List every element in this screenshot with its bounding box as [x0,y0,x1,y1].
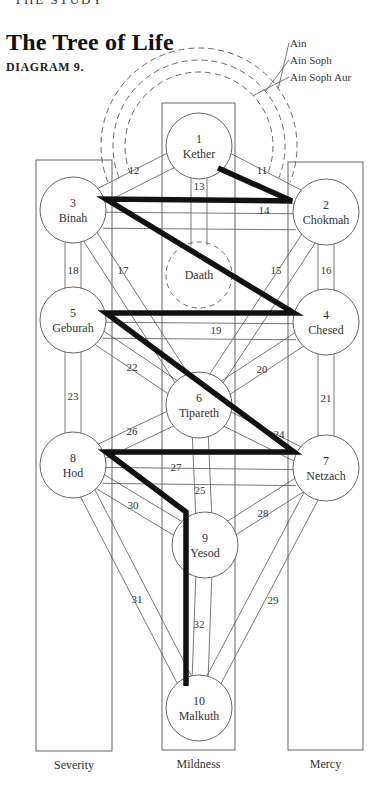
path-line [103,228,297,230]
path-number: 13 [194,180,206,192]
path-23: 23 [65,350,81,436]
path-line [208,434,211,515]
path-13: 13 [191,176,207,246]
sephirah-name: Daath [185,268,214,282]
veil-label: Ain Soph [290,54,332,66]
sephirah-circle [40,432,106,498]
sephirah-name: Chesed [308,323,343,337]
sephirah-circle [166,675,232,741]
sephirah-chokmah: 2Chokmah [293,179,359,245]
sephirah-number: 5 [70,306,76,320]
sephirah-hod: 8Hod [40,432,106,498]
path-18: 18 [65,240,81,291]
path-number: 28 [258,507,270,519]
path-number: 23 [68,390,80,402]
sephirah-yesod: 9Yesod [172,512,238,578]
tree-of-life-diagram: AinAin SophAin Soph AurSeverityMildnessM… [0,0,384,802]
path-number: 17 [118,264,130,276]
veil-label: Ain [290,37,307,49]
path-number: 22 [127,361,138,373]
path-number: 26 [127,425,139,437]
pillar-label-mercy: Mercy [310,757,341,771]
sephirah-name: Netzach [306,469,345,483]
sephirah-number: 9 [202,531,208,545]
path-number: 32 [194,618,205,630]
path-line [208,575,212,679]
sephirah-number: 10 [193,694,205,708]
sephirah-circle [172,512,238,578]
path-number: 25 [195,484,207,496]
path-25: 25 [192,434,211,515]
sephirah-name: Tipareth [179,406,219,420]
path-30: 30 [94,474,183,537]
sephirah-name: Chokmah [303,213,350,227]
sephirah-circle [40,287,106,353]
sephirah-name: Yesod [190,546,219,560]
pillar-label-severity: Severity [54,758,94,772]
sephirah-circle [293,435,359,501]
path-number: 31 [132,593,143,605]
sephirah-chesed: 4Chesed [293,289,359,355]
path-16: 16 [318,242,334,293]
sephirah-number: 3 [70,196,76,210]
sephiroth-group: 1Kether2Chokmah3BinahDaath4Chesed5Gebura… [40,113,359,741]
sephirah-number: 7 [323,454,329,468]
sephirah-circle [40,177,106,243]
sephirah-malkuth: 10Malkuth [166,675,232,741]
path-number: 14 [259,204,271,216]
path-number: 19 [211,324,223,336]
path-line [80,495,179,685]
veil-label: Ain Soph Aur [290,71,351,83]
sephirah-circle [293,289,359,355]
sephirah-name: Binah [59,211,88,225]
path-number: 16 [321,264,333,276]
path-line [94,488,193,678]
path-number: 21 [321,392,332,404]
sephirah-name: Kether [183,147,216,161]
path-number: 18 [68,264,80,276]
sephirah-number: 8 [70,451,76,465]
path-line [103,338,297,340]
path-number: 30 [128,499,140,511]
path-11: 11 [222,153,304,206]
sephirah-binah: 3Binah [40,177,106,243]
sephirah-geburah: 5Geburah [40,287,106,353]
path-number: 29 [268,594,280,606]
sephirah-name: Malkuth [179,709,220,723]
path-number: 20 [257,363,269,375]
path-line [209,232,303,375]
path-line [234,491,305,536]
sephirah-number: 6 [196,391,202,405]
path-32: 32 [192,574,212,678]
path-number: 12 [129,164,140,176]
sephirah-daath: Daath [166,242,232,308]
pillar-label-mildness: Mildness [176,757,220,771]
path-21: 21 [318,352,334,439]
sephirah-circle [293,179,359,245]
path-20: 20 [219,332,305,396]
path-number: 27 [171,461,183,473]
sephirah-netzach: 7Netzach [293,435,359,501]
path-line [192,435,195,516]
sephirah-number: 1 [196,132,202,146]
sephirah-name: Hod [63,466,84,480]
path-number: 11 [257,164,268,176]
sephirah-number: 2 [323,198,329,212]
path-number: 15 [271,264,283,276]
sephirah-number: 4 [323,308,329,322]
path-line [103,322,297,324]
sephirah-name: Geburah [52,321,93,335]
